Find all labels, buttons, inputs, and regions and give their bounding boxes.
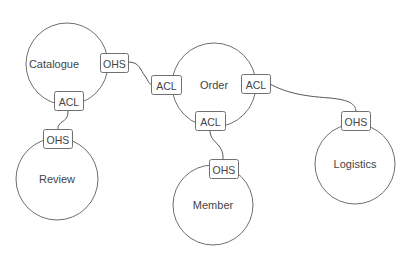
badge-catalogue-acl[interactable]: ACL [55, 92, 84, 111]
badge-label: OHS [213, 164, 236, 176]
context-label: Member [193, 199, 234, 211]
context-label: Catalogue [29, 58, 79, 70]
connector-catalogue-ohs-to-order-acl-left [128, 62, 151, 84]
badge-logistics-ohs[interactable]: OHS [342, 112, 371, 131]
badge-label: OHS [345, 116, 368, 128]
badge-order-acl-right[interactable]: ACL [242, 75, 271, 94]
badge-label: ACL [246, 79, 267, 91]
connector-order-acl-right-to-logistics-ohs [270, 84, 356, 111]
badge-label: ACL [156, 80, 177, 92]
context-label: Order [200, 79, 228, 91]
badge-label: OHS [103, 58, 126, 70]
context-logistics[interactable]: Logistics [315, 124, 395, 204]
badge-member-ohs[interactable]: OHS [210, 160, 239, 179]
badge-catalogue-ohs[interactable]: OHS [101, 54, 129, 73]
badge-order-acl-left[interactable]: ACL [152, 76, 182, 95]
connector-order-acl-bottom-to-member-ohs [210, 130, 223, 159]
context-review[interactable]: Review [16, 138, 98, 220]
badge-label: ACL [59, 96, 80, 108]
context-map-diagram: CatalogueOrderReviewMemberLogistics OHSA… [0, 0, 411, 259]
context-label: Logistics [334, 158, 377, 170]
badge-order-acl-bottom[interactable]: ACL [196, 112, 226, 131]
context-label: Review [39, 173, 75, 185]
badge-review-ohs[interactable]: OHS [44, 130, 73, 149]
connector-catalogue-acl-to-review-ohs [58, 110, 68, 129]
badge-label: ACL [200, 116, 221, 128]
badge-label: OHS [47, 134, 70, 146]
